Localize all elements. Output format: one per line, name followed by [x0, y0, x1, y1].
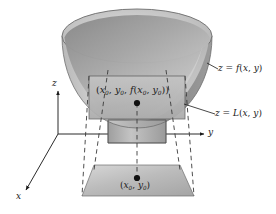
base-point-label: (x0, y0)	[120, 181, 150, 190]
surface-equation-label: z = f(x, y)	[218, 64, 262, 73]
tangent-point-label: (x0, y0, f(x0, y0))	[96, 85, 169, 95]
surface-equation-text: z = f(x, y)	[218, 63, 262, 73]
base-point-text: (x0, y0)	[120, 180, 150, 190]
tangent-point-text: (x0, y0, f(x0, y0))	[96, 84, 169, 95]
leader-plane-equation	[184, 104, 215, 114]
x-axis-label: x	[16, 192, 21, 201]
z-axis-label: z	[52, 79, 57, 88]
tangent-point-dot	[134, 100, 140, 106]
x-axis-line	[26, 134, 58, 190]
tangent-plane-figure: z y x z = f(x, y) z = L(x, y) (x0, y0, f…	[0, 0, 276, 214]
plane-equation-label: z = L(x, y)	[215, 109, 262, 118]
plane-equation-text: z = L(x, y)	[215, 108, 262, 118]
y-axis-label: y	[208, 128, 213, 137]
